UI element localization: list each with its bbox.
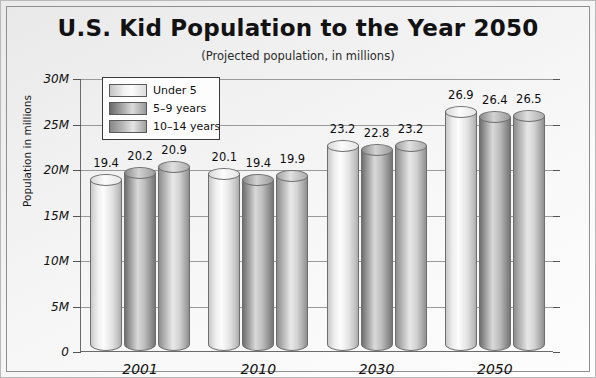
- bar-2030-series-2: 22.8: [361, 144, 393, 351]
- bar-2001-series-2: 20.2: [124, 167, 156, 351]
- x-axis-label-2010: 2010: [241, 361, 277, 377]
- chart-frame: U.S. Kid Population to the Year 2050 (Pr…: [0, 0, 596, 378]
- legend-label-5-9-years: 5–9 years: [153, 102, 206, 115]
- bar-value-label: 20.9: [161, 143, 187, 157]
- bar-cylinder-top: [276, 170, 308, 182]
- bar-value-label: 23.2: [398, 122, 424, 136]
- bar-value-label: 19.4: [93, 156, 119, 170]
- bar-body: [395, 146, 427, 351]
- chart-subtitle: (Projected population, in millions): [7, 49, 589, 63]
- bar-body: [90, 180, 122, 351]
- bar-body: [513, 116, 545, 351]
- y-axis-tick-label: 30M: [43, 72, 69, 86]
- bar-cylinder-top: [361, 144, 393, 156]
- bar-2001-series-3: 20.9: [158, 161, 190, 351]
- legend-item-5-9-years: 5–9 years: [109, 101, 213, 115]
- bar-body: [124, 173, 156, 351]
- legend-label-10-14-years: 10–14 years: [153, 120, 220, 133]
- bar-cylinder-top: [158, 161, 190, 173]
- bar-cylinder-top: [479, 111, 511, 123]
- chart-legend: Under 5 5–9 years 10–14 years: [102, 77, 220, 140]
- y-axis-tick-label: 15M: [43, 209, 69, 223]
- y-axis-tick-right: [553, 79, 560, 80]
- bar-body: [158, 167, 190, 351]
- y-axis-tick-right: [553, 307, 560, 308]
- y-axis-tick: [73, 352, 81, 353]
- y-axis-tick: [73, 216, 81, 217]
- bar-cylinder-top: [327, 140, 359, 152]
- x-axis-label-2030: 2030: [359, 361, 395, 377]
- y-axis-tick-right: [553, 170, 560, 171]
- bar-value-label: 26.4: [482, 93, 508, 107]
- y-axis-tick-right: [553, 352, 560, 353]
- bar-cylinder-top: [513, 110, 545, 122]
- legend-item-10-14-years: 10–14 years: [109, 119, 213, 133]
- bar-2030-series-3: 23.2: [395, 140, 427, 351]
- bar-value-label: 20.1: [212, 150, 238, 164]
- bar-body: [479, 117, 511, 351]
- x-axis-label-2001: 2001: [122, 361, 158, 377]
- bar-value-label: 26.9: [448, 88, 474, 102]
- bar-value-label: 19.9: [280, 152, 306, 166]
- bar-value-label: 22.8: [364, 126, 390, 140]
- chart-inner-panel: U.S. Kid Population to the Year 2050 (Pr…: [6, 6, 590, 372]
- y-axis-tick-label: 10M: [43, 254, 69, 268]
- bar-body: [445, 112, 477, 351]
- y-axis-tick-right: [553, 216, 560, 217]
- bar-2001-series-1: 19.4: [90, 174, 122, 351]
- chart-title: U.S. Kid Population to the Year 2050: [7, 15, 589, 41]
- bar-2010-series-3: 19.9: [276, 170, 308, 351]
- bar-body: [276, 176, 308, 351]
- bar-body: [361, 150, 393, 351]
- y-axis-tick: [73, 170, 81, 171]
- legend-swatch-5-9-years: [109, 102, 147, 115]
- bar-2050-series-2: 26.4: [479, 111, 511, 351]
- bar-2010-series-1: 20.1: [208, 168, 240, 351]
- y-axis-title: Population in millions: [21, 95, 33, 207]
- y-axis-tick: [73, 261, 81, 262]
- y-axis-tick-right: [553, 125, 560, 126]
- bar-body: [208, 174, 240, 351]
- bar-cylinder-top: [395, 140, 427, 152]
- bar-2050-series-1: 26.9: [445, 106, 477, 351]
- legend-swatch-10-14-years: [109, 120, 147, 133]
- legend-swatch-under-5: [109, 84, 147, 97]
- legend-item-under-5: Under 5: [109, 83, 213, 97]
- y-axis-tick-label: 0: [61, 345, 69, 359]
- y-axis-tick-label: 5M: [51, 300, 69, 314]
- bar-value-label: 20.2: [127, 149, 153, 163]
- y-axis-tick-label: 25M: [43, 118, 69, 132]
- bar-body: [242, 180, 274, 351]
- x-axis-label-2050: 2050: [477, 361, 513, 377]
- bar-2030-series-1: 23.2: [327, 140, 359, 351]
- bar-body: [327, 146, 359, 351]
- y-axis-tick-label: 20M: [43, 163, 69, 177]
- y-axis-tick: [73, 79, 81, 80]
- bar-value-label: 26.5: [516, 92, 542, 106]
- y-axis-tick: [73, 125, 81, 126]
- bar-2050-series-3: 26.5: [513, 110, 545, 351]
- y-axis-tick: [73, 307, 81, 308]
- bar-value-label: 23.2: [330, 122, 356, 136]
- legend-label-under-5: Under 5: [153, 84, 197, 97]
- y-axis-tick-right: [553, 261, 560, 262]
- bar-2010-series-2: 19.4: [242, 174, 274, 351]
- bar-value-label: 19.4: [246, 156, 272, 170]
